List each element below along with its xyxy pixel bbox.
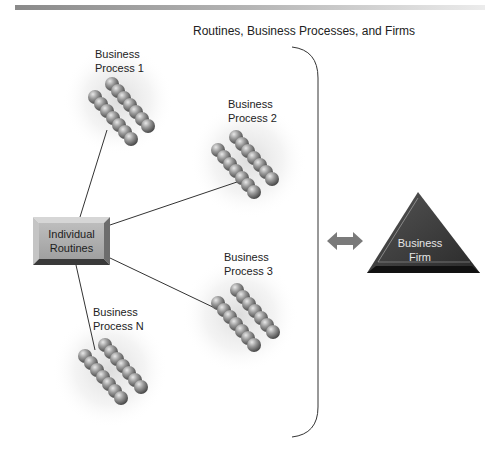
process-1-label: Business Process 1 — [95, 47, 144, 75]
process-2-label: Business Process 2 — [228, 97, 277, 125]
business-firm-label: Business Firm — [390, 236, 450, 264]
individual-routines-label: Individual Routines — [39, 227, 104, 255]
double-arrow-icon — [327, 232, 363, 250]
process-n-label: Business Process N — [93, 305, 144, 333]
grouping-bracket — [292, 47, 318, 437]
process-3-label: Business Process 3 — [224, 250, 273, 278]
